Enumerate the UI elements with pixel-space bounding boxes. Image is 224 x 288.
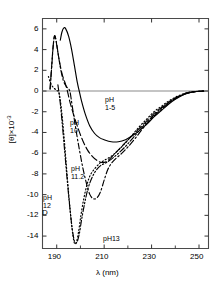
- x-tick-label: 210: [95, 252, 108, 261]
- y-tick-label: 4: [19, 45, 39, 54]
- y-tick-label: -10: [19, 190, 39, 199]
- y-tick-label: 2: [19, 65, 39, 74]
- y-tick-label: 6: [19, 24, 39, 33]
- y-axis-title: [θ]×10-3: [6, 99, 17, 159]
- curve-label-ph13: pH13: [103, 235, 120, 243]
- curve-label-ph1-5: pH 1-5: [105, 96, 115, 112]
- curve-label-ph11-2: pH 11.2: [71, 165, 84, 181]
- cd-spectrum-figure: [θ]×10-3 λ (nm) D 190210230250 6420-2-4-…: [0, 0, 224, 288]
- y-axis-title-exponent: -3: [6, 115, 12, 120]
- x-tick-label: 190: [48, 252, 61, 261]
- curve-label-ph12: pH 12: [43, 194, 52, 210]
- x-axis-title: λ (nm): [96, 268, 119, 277]
- x-tick-label: 250: [190, 252, 203, 261]
- y-tick-label: -12: [19, 210, 39, 219]
- x-tick-label: 230: [143, 252, 156, 261]
- y-tick-label: 0: [19, 86, 39, 95]
- y-tick-label: -2: [19, 107, 39, 116]
- y-axis-title-text: [θ]×10: [7, 121, 16, 143]
- axis-ticks: [43, 19, 209, 249]
- curve-ph-1-5: [60, 28, 203, 142]
- y-tick-label: -6: [19, 148, 39, 157]
- y-tick-label: -4: [19, 127, 39, 136]
- spectrum-curves: [48, 28, 203, 244]
- curve-label-ph10: pH 10: [70, 119, 79, 135]
- plot-canvas: [0, 0, 224, 288]
- y-tick-label: -8: [19, 169, 39, 178]
- plot-frame: [43, 19, 209, 249]
- curve-ph-10: [50, 36, 204, 163]
- y-tick-label: -14: [19, 231, 39, 240]
